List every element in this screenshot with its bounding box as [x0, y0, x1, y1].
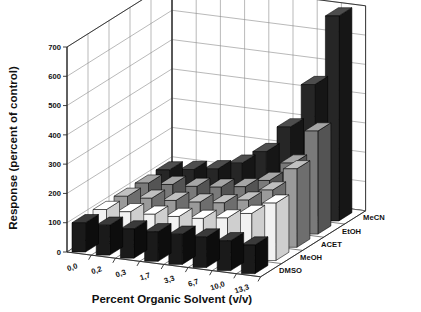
y-tick-label: 700 — [48, 43, 61, 52]
series-label-acet: ACET — [321, 240, 342, 249]
bar-dmso-6-7 — [193, 229, 220, 268]
y-tick-label: 400 — [48, 131, 61, 140]
bar-dmso-3-3 — [169, 226, 196, 264]
series-label-meoh: MeOH — [300, 253, 322, 262]
bar-dmso-10-0 — [217, 233, 244, 271]
series-label-mecn: MeCN — [363, 213, 385, 222]
series-label-etoh: EtOH — [342, 227, 361, 236]
bar-dmso-1-7 — [145, 224, 172, 262]
bar-dmso-0-0 — [72, 215, 99, 252]
y-tick-label: 100 — [48, 218, 61, 227]
y-tick-label: 500 — [48, 101, 61, 110]
chart-3d-bar: 0100200300400500600700Response (percent … — [0, 0, 421, 312]
series-label-dmso: DMSO — [279, 266, 302, 275]
bar-dmso-13-3 — [241, 237, 268, 274]
chart-canvas: 0100200300400500600700Response (percent … — [0, 0, 421, 312]
bar-dmso-0-3 — [120, 221, 146, 258]
bar-dmso-0-2 — [96, 217, 123, 255]
y-tick-label: 600 — [48, 72, 61, 81]
y-tick-label: 200 — [48, 189, 61, 198]
y-tick-label: 0 — [57, 248, 61, 257]
y-axis-title: Response (percent of control) — [7, 66, 19, 230]
y-tick-label: 300 — [48, 160, 61, 169]
x-axis-title: Percent Organic Solvent (v/v) — [92, 293, 253, 305]
